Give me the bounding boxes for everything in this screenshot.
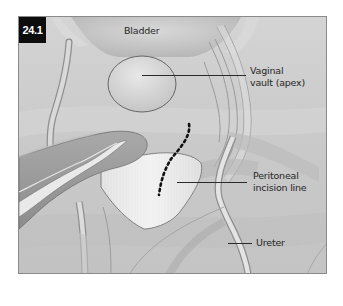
label-vaginal-vault-line1: Vaginal	[250, 65, 305, 77]
label-bladder: Bladder	[124, 25, 159, 37]
leader-line-ureter	[228, 243, 252, 244]
label-peritoneal-line2: incision line	[253, 182, 307, 194]
pelvic-anatomy-illustration	[19, 17, 327, 274]
label-peritoneal-incision: Peritoneal incision line	[253, 170, 307, 193]
label-peritoneal-line1: Peritoneal	[253, 170, 307, 182]
label-vaginal-vault: Vaginal vault (apex)	[250, 65, 305, 88]
label-vaginal-vault-line2: vault (apex)	[250, 77, 305, 89]
leader-line-vaginal-vault	[142, 75, 246, 76]
figure-number-badge: 24.1	[19, 17, 46, 43]
label-ureter: Ureter	[256, 237, 285, 249]
leader-line-peritoneal-incision	[177, 182, 247, 183]
vaginal-vault-shape	[108, 56, 176, 112]
surgical-illustration-figure: 24.1 Bladder Vaginal vault (apex) Perito…	[18, 16, 327, 274]
